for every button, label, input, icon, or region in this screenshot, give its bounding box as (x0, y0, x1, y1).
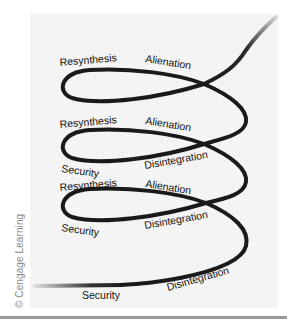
copyright-credit: © Cengage Learning (14, 214, 25, 308)
label-security-2: Security (61, 162, 101, 179)
label-security-3: Security (61, 221, 101, 238)
bottom-divider (0, 316, 287, 319)
label-resynthesis-1: Resynthesis (59, 51, 117, 68)
spiral-diagram: Resynthesis Alienation Resynthesis Alien… (0, 0, 287, 323)
label-alienation-1: Alienation (145, 52, 193, 71)
spiral-turn-1-right (204, 84, 246, 144)
label-resynthesis-2: Resynthesis (59, 113, 117, 130)
label-security-base: Security (82, 289, 121, 301)
spiral-top-tail (204, 17, 276, 84)
label-disintegration-base: Disintegration (165, 264, 230, 293)
spiral-loop-1-left (63, 70, 204, 102)
spiral-turn-2-right (204, 144, 246, 203)
spiral-bottom-tail (35, 285, 122, 286)
